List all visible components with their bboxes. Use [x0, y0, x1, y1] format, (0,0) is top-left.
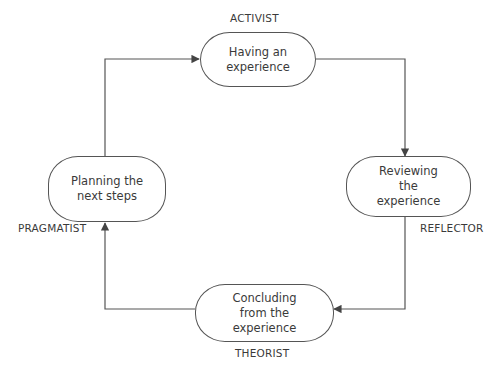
node-label-line: Planning the — [71, 174, 143, 189]
node-label-line: experience — [232, 321, 296, 336]
node-label-line: Having an — [226, 45, 290, 60]
role-label-reflector: REFLECTOR — [420, 222, 484, 234]
node-planning-the-next-steps: Planning the next steps — [48, 156, 166, 222]
role-label-pragmatist: PRAGMATIST — [18, 222, 86, 234]
node-label-line: Reviewing — [377, 164, 441, 179]
edge-pragmatist-to-activist — [105, 59, 199, 156]
edge-reflector-to-theorist — [334, 217, 405, 309]
node-label-line: from the — [232, 306, 296, 321]
edge-theorist-to-pragmatist — [105, 223, 195, 309]
node-label-line: experience — [377, 194, 441, 209]
node-label-line: Concluding — [232, 291, 296, 306]
node-having-an-experience: Having an experience — [200, 32, 316, 87]
node-concluding-from-the-experience: Concluding from the experience — [195, 284, 334, 342]
role-label-activist: ACTIVIST — [230, 12, 279, 24]
role-label-theorist: THEORIST — [235, 347, 289, 359]
node-label-line: the — [377, 179, 441, 194]
node-label-line: next steps — [71, 189, 143, 204]
edge-activist-to-reflector — [316, 59, 405, 156]
node-reviewing-the-experience: Reviewing the experience — [346, 156, 471, 217]
node-label-line: experience — [226, 60, 290, 75]
